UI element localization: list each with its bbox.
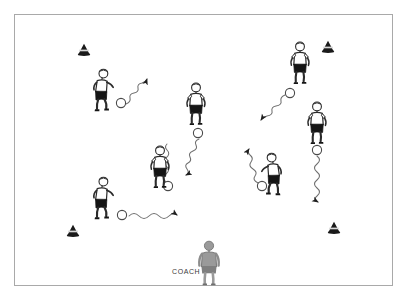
coach-label: COACH: [172, 268, 200, 275]
field-frame: [14, 14, 393, 286]
drill-diagram: COACH: [0, 0, 408, 304]
